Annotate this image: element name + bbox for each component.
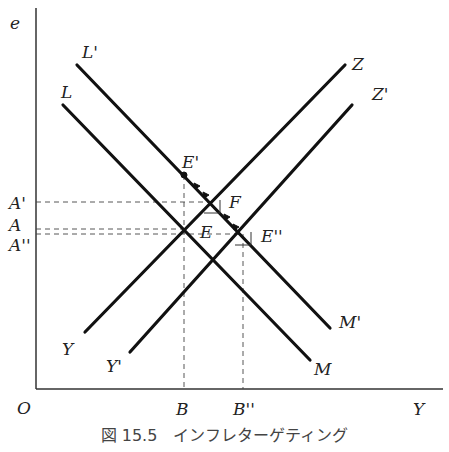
point-f: F bbox=[228, 192, 242, 212]
figure-caption: 図 15.5 インフレターゲティング bbox=[0, 422, 449, 446]
label-y: Y bbox=[62, 339, 75, 359]
label-l-prime: L' bbox=[81, 42, 98, 62]
label-y-prime: Y' bbox=[106, 356, 122, 376]
label-z: Z bbox=[351, 54, 365, 74]
point-e-prime: E' bbox=[181, 152, 199, 172]
tick-a-double-prime: A'' bbox=[7, 235, 31, 255]
tick-a-prime: A' bbox=[7, 193, 26, 213]
tick-b-double-prime: B'' bbox=[232, 399, 255, 419]
inflation-targeting-diagram: e Y O A' A A'' B B'' L M L' M' Z Y Z' Y'… bbox=[0, 0, 449, 452]
curve-zy bbox=[85, 65, 345, 332]
origin-label: O bbox=[17, 398, 31, 418]
label-m: M bbox=[313, 359, 332, 379]
tick-b: B bbox=[175, 399, 189, 419]
label-z-prime: Z' bbox=[371, 84, 389, 104]
tick-a: A bbox=[7, 215, 21, 235]
label-l: L bbox=[60, 82, 72, 102]
point-e: E bbox=[199, 222, 213, 242]
y-axis-label: e bbox=[10, 13, 20, 33]
label-m-prime: M' bbox=[338, 312, 361, 332]
point-e-double-prime: E'' bbox=[260, 226, 283, 246]
x-axis-label: Y bbox=[413, 399, 426, 419]
